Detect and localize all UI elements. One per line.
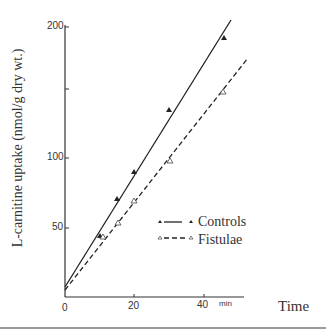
legend-label-fistulae: Fistulae <box>198 232 242 248</box>
x-axis-title: Time <box>278 298 309 315</box>
legend-item-controls: Controls <box>158 213 246 231</box>
x-unit-label: min <box>219 299 232 308</box>
x-tick-label-20: 20 <box>128 300 139 311</box>
chart-plot-area <box>0 0 326 332</box>
fistulae-point <box>167 158 173 163</box>
bottom-divider <box>0 327 326 329</box>
y-tick-label-200: 200 <box>47 20 64 31</box>
legend-item-fistulae: Fistulae <box>158 231 246 249</box>
legend: Controls Fistulae <box>158 213 246 249</box>
controls-point <box>166 107 172 112</box>
x-tick-label-40: 40 <box>197 299 208 310</box>
y-tick-label-100: 100 <box>47 151 64 162</box>
x-tick-label-0: 0 <box>62 302 68 313</box>
y-axis-title: L-carnitine uptake (nmol/g dry wt.) <box>10 38 26 258</box>
y-tick-label-50: 50 <box>52 221 63 232</box>
controls-point <box>114 196 120 201</box>
controls-markers <box>97 35 227 238</box>
legend-label-controls: Controls <box>198 214 246 230</box>
